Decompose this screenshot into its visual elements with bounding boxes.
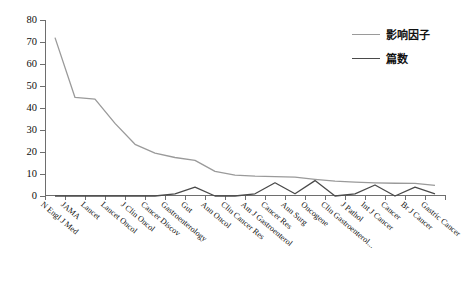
y-tick-label: 0 — [13, 191, 37, 202]
y-tick-label: 40 — [13, 103, 37, 114]
legend-item-impact-factor: 影响因子 — [352, 22, 458, 46]
x-tick-mark — [445, 196, 446, 200]
y-tick-label: 30 — [13, 125, 37, 136]
chart-legend: 影响因子 篇数 — [352, 22, 458, 70]
y-tick-mark — [40, 64, 45, 65]
y-tick-mark — [40, 174, 45, 175]
y-tick-mark — [40, 42, 45, 43]
y-tick-mark — [40, 86, 45, 87]
y-axis-line — [45, 20, 46, 196]
y-tick-label: 80 — [13, 15, 37, 26]
y-tick-label: 50 — [13, 81, 37, 92]
y-tick-mark — [40, 130, 45, 131]
series-line-article-count — [55, 181, 435, 196]
y-tick-mark — [40, 20, 45, 21]
y-tick-label: 10 — [13, 169, 37, 180]
y-tick-mark — [40, 108, 45, 109]
y-tick-label: 60 — [13, 59, 37, 70]
x-axis-label: Lancet — [79, 200, 102, 221]
y-tick-label: 20 — [13, 147, 37, 158]
legend-swatch-article-count — [352, 58, 380, 59]
legend-label-article-count: 篇数 — [386, 50, 408, 66]
y-tick-label: 70 — [13, 37, 37, 48]
legend-swatch-impact-factor — [352, 34, 380, 35]
x-axis-label: Gut — [179, 200, 194, 215]
legend-item-article-count: 篇数 — [352, 46, 458, 70]
legend-label-impact-factor: 影响因子 — [386, 26, 430, 42]
impact-factor-line-chart: 01020304050607080 N Engl J MedJAMALancet… — [0, 0, 462, 286]
y-tick-mark — [40, 152, 45, 153]
